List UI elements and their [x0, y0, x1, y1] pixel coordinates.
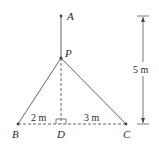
geometry-diagram: A P B D C 2 m 3 m 5 m [0, 0, 159, 146]
label-p: P [64, 47, 72, 59]
point-a [60, 15, 63, 18]
point-c [125, 123, 128, 126]
label-b: B [12, 128, 19, 140]
label-a: A [66, 10, 74, 22]
point-p [59, 56, 62, 59]
dimension-height: 5 m [133, 64, 149, 75]
arrow-down-icon [141, 118, 145, 123]
label-d: D [56, 128, 65, 140]
point-b [17, 123, 20, 126]
right-angle-marker [56, 119, 61, 124]
label-c: C [123, 128, 131, 140]
arrow-up-icon [141, 17, 145, 22]
right-angle-marker-2 [61, 119, 66, 124]
dimension-bd: 2 m [31, 112, 47, 123]
dimension-dc: 3 m [84, 112, 100, 123]
